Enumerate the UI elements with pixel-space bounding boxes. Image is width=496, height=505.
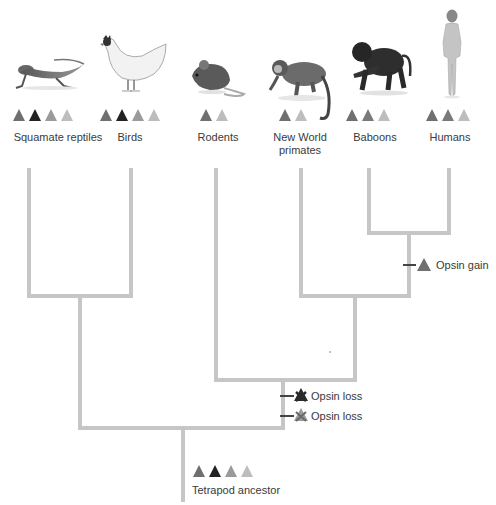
human-icon bbox=[437, 8, 467, 100]
opsin-gain-triangle-icon bbox=[417, 258, 431, 271]
baboon-icon bbox=[346, 38, 414, 98]
taxon-label-rodents: Rodents bbox=[190, 131, 246, 144]
opsin-loss-label-2: Opsin loss bbox=[311, 410, 362, 422]
opsin-triangle-icon bbox=[45, 109, 57, 121]
opsin-triangle-icon bbox=[216, 109, 228, 121]
lizard-icon bbox=[12, 58, 87, 93]
opsin-set-new-world-primates bbox=[279, 109, 307, 121]
chicken-icon bbox=[94, 30, 169, 95]
opsin-triangle-icon bbox=[61, 109, 73, 121]
opsin-triangle-icon bbox=[209, 465, 221, 477]
opsin-triangle-icon bbox=[279, 109, 291, 121]
mouse-icon bbox=[188, 58, 246, 100]
opsin-triangle-icon bbox=[295, 109, 307, 121]
opsin-loss-light-icon bbox=[294, 408, 308, 422]
opsin-set-rodents bbox=[200, 109, 228, 121]
opsin-loss-label-1: Opsin loss bbox=[311, 390, 362, 402]
opsin-triangle-icon bbox=[241, 465, 253, 477]
opsin-set-tetrapod-ancestor bbox=[193, 465, 253, 477]
taxon-label-birds: Birds bbox=[110, 131, 150, 144]
opsin-triangle-icon bbox=[426, 109, 438, 121]
opsin-triangle-icon bbox=[458, 109, 470, 121]
opsin-triangle-icon bbox=[100, 109, 112, 121]
taxon-label-squamate-reptiles: Squamate reptiles bbox=[3, 131, 113, 144]
opsin-triangle-icon bbox=[29, 109, 41, 121]
opsin-triangle-icon bbox=[378, 109, 390, 121]
branch-baboons-humans bbox=[369, 170, 449, 233]
opsin-triangle-icon bbox=[225, 465, 237, 477]
taxon-label-new-world-primates: New World primates bbox=[260, 131, 340, 157]
opsin-gain-label: Opsin gain bbox=[436, 259, 489, 271]
opsin-triangle-icon bbox=[116, 109, 128, 121]
opsin-loss-dark-icon bbox=[294, 388, 308, 402]
root-label: Tetrapod ancestor bbox=[192, 484, 280, 496]
opsin-triangle-icon bbox=[13, 109, 25, 121]
event-tick-mark bbox=[403, 264, 416, 266]
opsin-triangle-icon bbox=[148, 109, 160, 121]
taxon-label-humans: Humans bbox=[422, 131, 478, 144]
event-tick-mark bbox=[280, 415, 294, 417]
branch-reptiles-birds bbox=[29, 170, 131, 296]
opsin-triangle-icon bbox=[193, 465, 205, 477]
opsin-triangle-icon bbox=[132, 109, 144, 121]
opsin-triangle-icon bbox=[200, 109, 212, 121]
opsin-set-squamate-reptiles bbox=[13, 109, 73, 121]
taxon-label-baboons: Baboons bbox=[345, 131, 405, 144]
opsin-triangle-icon bbox=[442, 109, 454, 121]
event-tick-mark bbox=[280, 395, 294, 397]
opsin-triangle-icon bbox=[362, 109, 374, 121]
opsin-set-humans bbox=[426, 109, 470, 121]
opsin-set-birds bbox=[100, 109, 160, 121]
opsin-triangle-icon bbox=[346, 109, 358, 121]
opsin-set-baboons bbox=[346, 109, 390, 121]
